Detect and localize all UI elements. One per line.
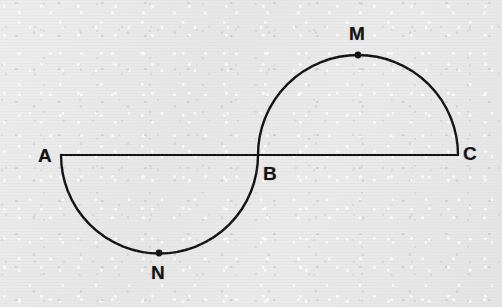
vertex-label-c: C [463,144,477,163]
arc-upper-B-to-C [258,55,458,155]
vertex-label-m: M [349,24,365,43]
point-marker-m [355,52,362,59]
vertex-label-b: B [263,164,277,183]
geometry-figure: ABCMN [0,0,502,307]
vertex-label-a: A [38,146,52,165]
point-marker-n [156,250,163,257]
diagram-canvas [0,0,502,307]
diagram-strokes [61,55,458,254]
vertex-label-n: N [151,263,165,282]
arc-lower-A-to-B [61,155,258,254]
